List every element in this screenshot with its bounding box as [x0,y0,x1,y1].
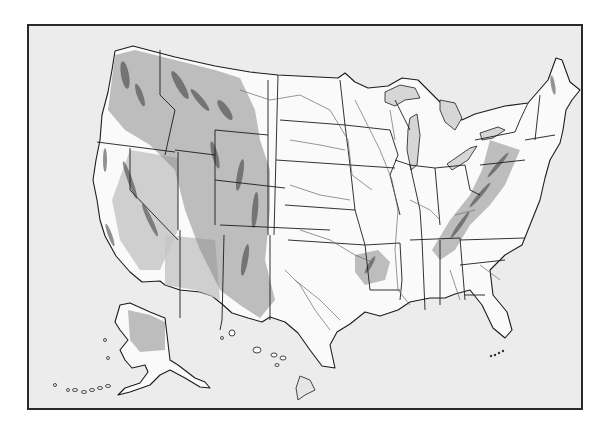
florida-keys [490,350,504,357]
us-relief-map [0,0,609,435]
hawaii [221,330,316,400]
aleutian-islands [54,339,111,394]
